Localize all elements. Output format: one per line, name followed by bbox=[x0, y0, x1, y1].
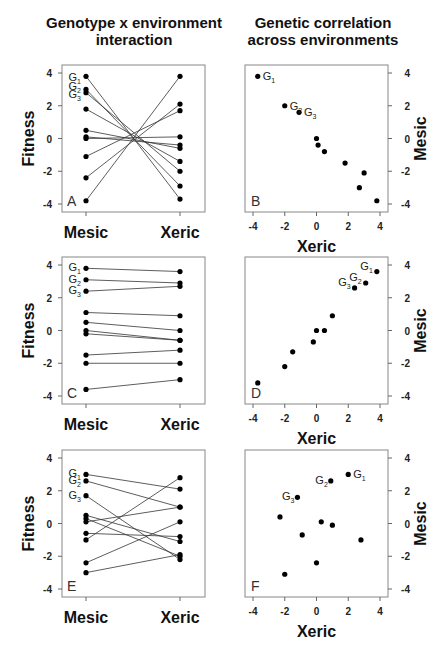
reaction-norm-line bbox=[86, 350, 180, 355]
x-tick-label: 2 bbox=[345, 221, 351, 232]
panel-c: 420-2-4FitnessMesicXericG1G2G3C bbox=[20, 257, 205, 433]
data-point bbox=[83, 331, 88, 336]
y-tick-label: 2 bbox=[404, 293, 410, 304]
data-point bbox=[83, 74, 88, 79]
y-tick-label: 4 bbox=[404, 260, 410, 271]
genotype-label-g2: G2 bbox=[290, 100, 303, 114]
data-point bbox=[83, 531, 88, 536]
y-tick-label: -4 bbox=[401, 199, 410, 210]
data-point bbox=[177, 159, 182, 164]
reaction-norm-line bbox=[86, 312, 180, 315]
x-category-xeric: Xeric bbox=[160, 609, 199, 626]
data-point bbox=[177, 505, 182, 510]
data-point bbox=[177, 196, 182, 201]
left-title-line1: Genotype x environment bbox=[46, 14, 222, 31]
data-point bbox=[177, 552, 182, 557]
reaction-norm-line bbox=[86, 104, 180, 178]
x-tick-label: 0 bbox=[314, 606, 320, 617]
x-category-xeric: Xeric bbox=[160, 416, 199, 433]
y-tick-label: 4 bbox=[46, 260, 52, 271]
y-tick-label: 4 bbox=[404, 68, 410, 79]
x-tick-label: 0 bbox=[314, 413, 320, 424]
y-tick-label: 0 bbox=[46, 326, 52, 337]
x-tick-label: 2 bbox=[345, 606, 351, 617]
genotype-label-g2: G2 bbox=[315, 474, 328, 488]
data-point bbox=[255, 74, 260, 79]
genotype-label-g1: G1 bbox=[360, 260, 373, 274]
data-point bbox=[177, 348, 182, 353]
y-axis-label: Mesic bbox=[412, 501, 429, 546]
y-axis-label: Fitness bbox=[20, 110, 37, 166]
x-axis-label: Xeric bbox=[297, 238, 336, 255]
x-category-mesic: Mesic bbox=[64, 416, 109, 433]
x-category-xeric: Xeric bbox=[160, 224, 199, 241]
y-tick-label: 4 bbox=[46, 68, 52, 79]
panel-letter: C bbox=[67, 385, 77, 401]
x-tick-label: -4 bbox=[249, 606, 258, 617]
data-point bbox=[177, 519, 182, 524]
data-point bbox=[362, 170, 367, 175]
x-tick-label: -4 bbox=[249, 221, 258, 232]
data-point bbox=[374, 269, 379, 274]
data-point bbox=[282, 364, 287, 369]
panel-letter: D bbox=[251, 385, 261, 401]
reaction-norm-line bbox=[86, 533, 180, 536]
reaction-norm-line bbox=[86, 130, 180, 148]
reaction-norm-line bbox=[86, 555, 180, 573]
data-point bbox=[314, 560, 319, 565]
y-tick-label: 4 bbox=[404, 453, 410, 464]
data-point bbox=[83, 352, 88, 357]
data-point bbox=[300, 532, 305, 537]
data-point bbox=[83, 154, 88, 159]
y-tick-label: -4 bbox=[43, 199, 52, 210]
y-tick-label: 2 bbox=[404, 101, 410, 112]
data-point bbox=[83, 136, 88, 141]
genotype-label-g2: G2 bbox=[349, 271, 362, 285]
data-point bbox=[322, 328, 327, 333]
panel-a: 420-2-4FitnessMesicXericG1G2G3A bbox=[20, 65, 205, 241]
data-point bbox=[177, 313, 182, 318]
y-tick-label: -2 bbox=[43, 358, 52, 369]
reaction-norm-line bbox=[86, 93, 180, 172]
data-point bbox=[83, 472, 88, 477]
panel-b: 420-2-4-4-2024MesicXericG1G2G3B bbox=[245, 65, 429, 255]
right-title-line1: Genetic correlation bbox=[255, 14, 392, 31]
data-point bbox=[374, 198, 379, 203]
reaction-norm-line bbox=[86, 268, 180, 271]
reaction-norm-line bbox=[86, 481, 180, 507]
y-tick-label: -4 bbox=[43, 584, 52, 595]
y-tick-label: 2 bbox=[46, 486, 52, 497]
genotype-label-g3: G3 bbox=[69, 489, 82, 503]
x-tick-label: -2 bbox=[280, 606, 289, 617]
data-point bbox=[358, 537, 363, 542]
left-title-line2: interaction bbox=[96, 31, 173, 48]
reaction-norm-line bbox=[86, 111, 180, 157]
x-tick-label: 2 bbox=[345, 413, 351, 424]
data-point bbox=[177, 169, 182, 174]
y-tick-label: -2 bbox=[401, 166, 410, 177]
data-point bbox=[83, 537, 88, 542]
y-axis-label: Mesic bbox=[412, 308, 429, 353]
x-tick-label: -4 bbox=[249, 413, 258, 424]
x-tick-label: 4 bbox=[377, 413, 383, 424]
x-category-mesic: Mesic bbox=[64, 224, 109, 241]
data-point bbox=[83, 361, 88, 366]
data-point bbox=[177, 108, 182, 113]
x-axis-label: Xeric bbox=[297, 623, 336, 640]
x-tick-label: 4 bbox=[377, 221, 383, 232]
panel-letter: A bbox=[67, 193, 77, 209]
y-tick-label: -4 bbox=[401, 391, 410, 402]
data-point bbox=[328, 478, 333, 483]
genotype-label-g1: G1 bbox=[263, 70, 276, 84]
y-tick-label: 2 bbox=[46, 293, 52, 304]
data-point bbox=[83, 128, 88, 133]
x-axis-label: Xeric bbox=[297, 430, 336, 447]
x-category-mesic: Mesic bbox=[64, 609, 109, 626]
reaction-norm-line bbox=[86, 507, 180, 522]
data-point bbox=[83, 387, 88, 392]
data-point bbox=[346, 472, 351, 477]
data-point bbox=[342, 160, 347, 165]
data-point bbox=[295, 495, 300, 500]
panel-d: 420-2-4-4-2024MesicXericG1G2G3D bbox=[245, 257, 429, 447]
y-tick-label: 4 bbox=[46, 453, 52, 464]
